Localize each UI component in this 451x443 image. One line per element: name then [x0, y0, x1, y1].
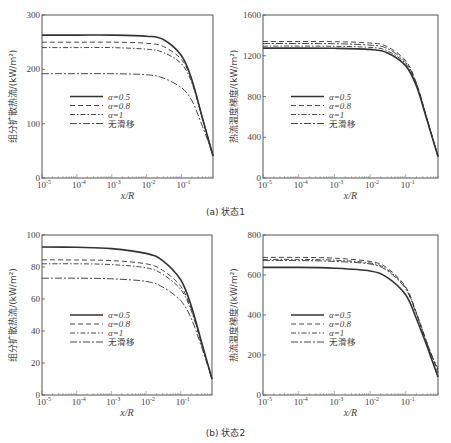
x-axis-label: x/R: [343, 190, 357, 201]
y-tick-label: 1600: [243, 10, 262, 20]
chart-a-left: 010020030010-510-410-310-210-1x/R组分扩散热流/…: [7, 10, 213, 201]
y-tick-label: 100: [27, 119, 41, 129]
x-axis-label: x/R: [343, 407, 357, 418]
caption-a: (a) 状态1: [0, 205, 451, 218]
x-tick-label: 10-3: [329, 396, 343, 407]
x-tick-label: 10-2: [141, 396, 155, 407]
y-axis-label: 组分扩散热流/(kW/m²): [7, 50, 18, 144]
x-tick-label: 10-3: [106, 396, 120, 407]
y-tick-label: 100: [27, 230, 41, 240]
y-tick-label: 300: [27, 10, 41, 20]
chart-b-right: 020040060080010-510-410-310-210-1x/R热流温度…: [228, 230, 438, 418]
legend-label: 无滑移: [108, 119, 135, 129]
x-tick-label: 10-4: [294, 396, 308, 407]
y-tick-label: 400: [248, 132, 262, 142]
x-tick-label: 10-1: [401, 396, 415, 407]
y-tick-label: 200: [27, 64, 41, 74]
x-axis-label: x/R: [119, 407, 133, 418]
x-tick-label: 10-2: [365, 396, 379, 407]
chart-b-left: 02040608010010-510-410-310-210-1x/R组分扩散热…: [7, 230, 212, 418]
legend-label: 无滑移: [329, 337, 356, 347]
x-tick-label: 10-4: [72, 179, 86, 190]
legend-label: 无滑移: [329, 119, 356, 129]
y-tick-label: 400: [248, 310, 262, 320]
y-tick-label: 200: [248, 350, 262, 360]
x-tick-label: 10-4: [294, 179, 308, 190]
y-tick-label: 60: [31, 294, 41, 304]
y-tick-label: 20: [31, 358, 41, 368]
x-tick-label: 10-1: [176, 396, 190, 407]
y-axis-label: 组分扩散热流/(kW/m²): [7, 268, 18, 362]
figure: 010020030010-510-410-310-210-1x/R组分扩散热流/…: [0, 0, 451, 443]
x-tick-label: 10-1: [177, 179, 191, 190]
series-line: [42, 74, 213, 156]
chart-a-right: 04008001200160010-510-410-310-210-1x/R热流…: [228, 10, 438, 201]
y-axis-label: 热流温度梯度/(kW/m²): [228, 50, 239, 144]
y-axis-label: 热流温度梯度/(kW/m²): [228, 268, 239, 362]
x-tick-label: 10-4: [72, 396, 86, 407]
x-tick-label: 10-2: [142, 179, 156, 190]
y-tick-label: 800: [248, 230, 262, 240]
x-tick-label: 10-5: [37, 179, 51, 190]
x-tick-label: 10-3: [107, 179, 121, 190]
caption-b: (b) 状态2: [0, 426, 451, 439]
x-tick-label: 10-2: [365, 179, 379, 190]
x-tick-label: 10-5: [37, 396, 51, 407]
x-tick-label: 10-3: [329, 179, 343, 190]
legend-label: 无滑移: [108, 337, 135, 347]
x-tick-label: 10-1: [401, 179, 415, 190]
y-tick-label: 1200: [243, 51, 262, 61]
y-tick-label: 600: [248, 270, 262, 280]
y-tick-label: 800: [248, 92, 262, 102]
y-tick-label: 80: [31, 262, 41, 272]
x-tick-label: 10-5: [258, 179, 272, 190]
x-tick-label: 10-5: [258, 396, 272, 407]
x-axis-label: x/R: [120, 190, 134, 201]
y-tick-label: 40: [31, 326, 41, 336]
